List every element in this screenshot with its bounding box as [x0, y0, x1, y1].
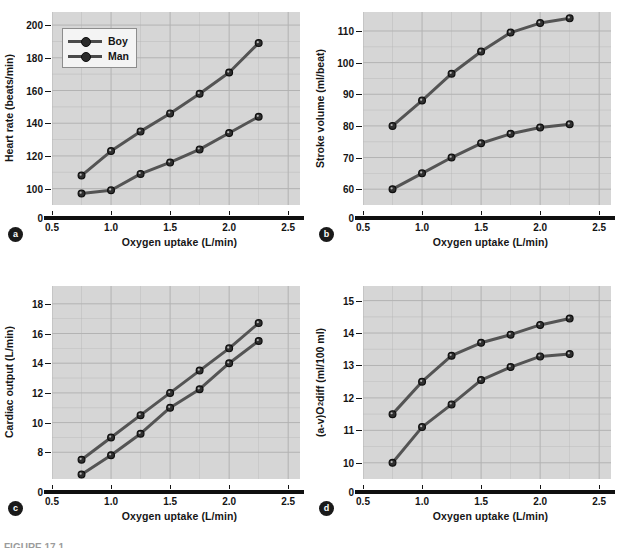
panel-d-badge: d: [319, 501, 334, 516]
marker-highlight: [479, 378, 481, 380]
marker-highlight: [227, 346, 229, 348]
data-point-man: [196, 90, 203, 97]
marker-highlight: [80, 192, 82, 194]
data-point-boy: [137, 430, 144, 437]
ytick-mark: [356, 398, 362, 399]
xtick-label-c-0: 0.5: [45, 496, 59, 507]
panel-c-xlabel: Oxygen uptake (L/min): [52, 510, 307, 522]
xtick-mark: [52, 211, 53, 215]
ytick-mark: [356, 333, 362, 334]
data-point-boy: [196, 386, 203, 393]
panel-a-plot: 10012014016018020000.51.01.52.02.5BoyMan: [0, 0, 311, 274]
xtick-label-c-3: 2.0: [222, 496, 236, 507]
data-point-boy: [196, 146, 203, 153]
data-point-boy: [478, 377, 485, 384]
xtick-label-d-4: 2.5: [592, 496, 606, 507]
marker-highlight: [227, 71, 229, 73]
ytick-mark: [45, 363, 51, 364]
ytick-label-a-2: 140: [9, 118, 43, 129]
marker-highlight: [139, 432, 141, 434]
data-point-man: [196, 367, 203, 374]
plot-canvas-c: [52, 286, 300, 479]
data-point-boy: [566, 351, 573, 358]
data-point-man: [478, 339, 485, 346]
ytick-label-c-5: 18: [9, 298, 43, 309]
data-point-boy: [167, 404, 174, 411]
xtick-label-b-4: 2.5: [592, 222, 606, 233]
marker-highlight: [139, 172, 141, 174]
xtick-label-c-1: 1.0: [104, 496, 118, 507]
data-point-man: [226, 69, 233, 76]
ytick-label-d-3: 13: [320, 360, 354, 371]
plot-area-c: [52, 286, 300, 479]
ytick-mark: [356, 94, 362, 95]
ytick-label-a-1: 120: [9, 150, 43, 161]
data-point-man: [389, 411, 396, 418]
marker-highlight: [538, 354, 540, 356]
ytick-label-c-2: 12: [9, 387, 43, 398]
marker-highlight: [198, 92, 200, 94]
ytick-label-d-0: 10: [320, 457, 354, 468]
legend-marker-icon: [68, 50, 102, 62]
marker-highlight: [450, 72, 452, 74]
data-point-man: [167, 110, 174, 117]
panel-d-plot: 10111213141500.51.01.52.02.5: [311, 274, 622, 548]
y-axis-break-c: [44, 480, 304, 485]
data-point-boy: [108, 452, 115, 459]
x-axis-baseline-d: [355, 490, 615, 494]
marker-highlight: [568, 316, 570, 318]
ytick-label-b-5: 110: [320, 25, 354, 36]
ytick-label-c-1: 10: [9, 417, 43, 428]
xtick-label-b-0: 0.5: [356, 222, 370, 233]
data-point-boy: [167, 159, 174, 166]
marker-highlight: [538, 21, 540, 23]
marker-highlight: [479, 141, 481, 143]
ytick-label-c-0: 8: [9, 447, 43, 458]
xtick-label-b-3: 2.0: [533, 222, 547, 233]
marker-highlight: [391, 187, 393, 189]
y-axis-break-d: [355, 480, 615, 485]
marker-highlight: [420, 171, 422, 173]
ytick-mark: [45, 156, 51, 157]
ytick-label-b-origin: 0: [320, 213, 354, 224]
data-point-man: [478, 48, 485, 55]
data-point-boy: [389, 186, 396, 193]
data-point-man: [566, 315, 573, 322]
ytick-mark: [45, 304, 51, 305]
xtick-label-c-4: 2.5: [281, 496, 295, 507]
marker-highlight: [227, 361, 229, 363]
marker-highlight: [568, 16, 570, 18]
marker-highlight: [109, 435, 111, 437]
ytick-label-c-3: 14: [9, 358, 43, 369]
panel-c-badge: c: [8, 501, 23, 516]
data-point-boy: [419, 424, 426, 431]
x-axis-baseline-c: [44, 490, 304, 494]
legend-label-boy: Boy: [108, 35, 128, 47]
xtick-label-d-2: 1.5: [474, 496, 488, 507]
ytick-mark: [356, 31, 362, 32]
marker-highlight: [227, 131, 229, 133]
data-point-boy: [448, 154, 455, 161]
xtick-label-a-0: 0.5: [45, 222, 59, 233]
xtick-label-c-2: 1.5: [163, 496, 177, 507]
xtick-label-d-1: 1.0: [415, 496, 429, 507]
marker-highlight: [509, 333, 511, 335]
ytick-mark: [45, 334, 51, 335]
data-point-man: [108, 434, 115, 441]
data-point-man: [78, 456, 85, 463]
ytick-mark: [356, 301, 362, 302]
marker-highlight: [391, 412, 393, 414]
data-point-boy: [389, 459, 396, 466]
xtick-label-b-2: 1.5: [474, 222, 488, 233]
data-point-man: [167, 389, 174, 396]
marker-highlight: [420, 99, 422, 101]
marker-highlight: [391, 124, 393, 126]
marker-highlight: [80, 174, 82, 176]
ytick-label-d-1: 11: [320, 425, 354, 436]
marker-highlight: [198, 387, 200, 389]
panel-a-badge: a: [8, 227, 23, 242]
marker-highlight: [168, 406, 170, 408]
marker-highlight: [450, 402, 452, 404]
x-axis-baseline-a: [44, 216, 304, 220]
ytick-label-d-2: 12: [320, 392, 354, 403]
